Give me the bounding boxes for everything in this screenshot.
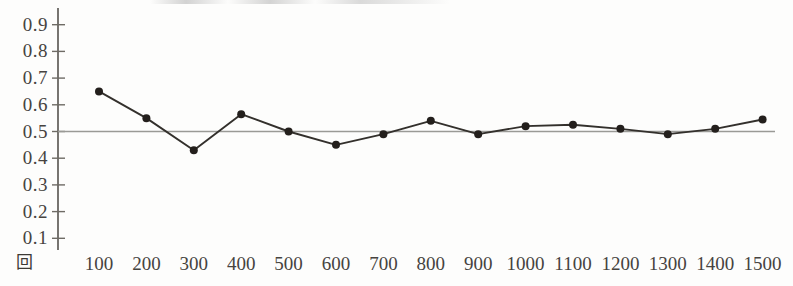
- x-axis-tick-label: 1000: [507, 254, 545, 273]
- x-axis-tick-label: 900: [464, 254, 493, 273]
- y-axis-tick-label: 0.8: [2, 41, 48, 60]
- data-point: [616, 125, 624, 133]
- y-axis-tick-label: 0.4: [2, 148, 48, 167]
- data-point: [190, 146, 198, 154]
- line-chart-svg: [0, 0, 793, 286]
- y-axis-tick-label: 0.9: [2, 15, 48, 34]
- x-axis-tick-label: 200: [132, 254, 161, 273]
- data-point: [285, 128, 293, 136]
- data-point: [664, 130, 672, 138]
- y-axis-tick-label: 0.3: [2, 175, 48, 194]
- x-axis-title: 回: [16, 254, 33, 271]
- x-axis-tick-label: 500: [274, 254, 303, 273]
- chart-container: 0.90.80.70.60.50.40.30.20.1 100200300400…: [0, 0, 793, 286]
- x-axis-tick-label: 700: [369, 254, 398, 273]
- data-point: [759, 115, 767, 123]
- x-axis-tick-label: 400: [227, 254, 256, 273]
- data-point: [142, 114, 150, 122]
- plot-area: 0.90.80.70.60.50.40.30.20.1 100200300400…: [0, 0, 793, 286]
- data-point: [474, 130, 482, 138]
- data-point: [332, 141, 340, 149]
- data-point: [95, 87, 103, 95]
- y-axis-tick-label: 0.7: [2, 68, 48, 87]
- x-axis-tick-label: 1300: [649, 254, 687, 273]
- data-point: [522, 122, 530, 130]
- x-axis-tick-label: 600: [322, 254, 351, 273]
- data-point: [379, 130, 387, 138]
- data-point: [711, 125, 719, 133]
- y-axis-tick-label: 0.2: [2, 202, 48, 221]
- x-axis-tick-label: 800: [417, 254, 446, 273]
- x-axis-tick-label: 1400: [696, 254, 734, 273]
- data-point: [569, 121, 577, 129]
- y-axis-tick-label: 0.1: [2, 228, 48, 247]
- x-axis-tick-label: 1100: [554, 254, 591, 273]
- x-axis-tick-label: 1200: [601, 254, 639, 273]
- x-axis-tick-label: 100: [85, 254, 114, 273]
- x-axis-tick-label: 300: [180, 254, 209, 273]
- y-axis-tick-label: 0.5: [2, 122, 48, 141]
- data-point: [427, 117, 435, 125]
- x-axis-tick-label: 1500: [744, 254, 782, 273]
- y-axis-tick-label: 0.6: [2, 95, 48, 114]
- data-point: [237, 110, 245, 118]
- data-point-markers: [95, 87, 767, 154]
